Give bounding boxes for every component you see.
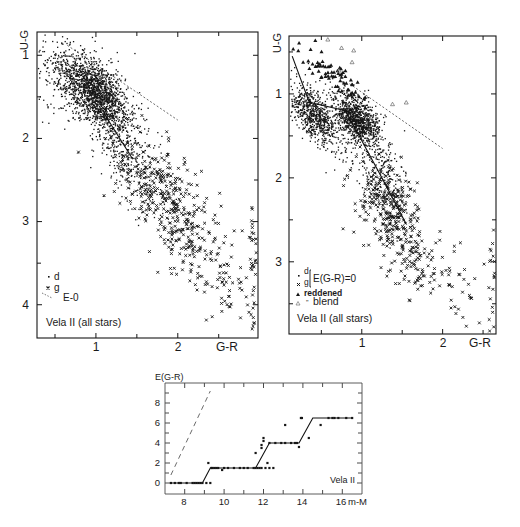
data-point-cross: [214, 214, 217, 217]
data-point-dot: [126, 130, 127, 131]
data-point-dot: [127, 135, 128, 136]
data-point-dot: [92, 77, 93, 78]
data-point-dot: [243, 467, 245, 469]
data-point-dot: [382, 167, 383, 168]
data-point-cross: [354, 202, 357, 205]
data-point-dot: [356, 123, 357, 124]
data-point-dot: [114, 109, 115, 110]
data-point-dot: [101, 86, 102, 87]
data-point-dot: [78, 88, 79, 89]
data-point-dot: [355, 109, 356, 110]
data-point-dot: [135, 158, 136, 159]
data-point-dot: [360, 109, 361, 110]
data-point-dot: [375, 134, 376, 135]
data-point-dot: [47, 60, 48, 61]
data-point-dot: [373, 121, 374, 122]
data-point-dot: [78, 98, 79, 99]
data-point-dot: [306, 100, 307, 101]
data-point-dot: [334, 136, 335, 137]
data-point-cross: [146, 214, 149, 217]
data-point-cross: [254, 242, 257, 245]
data-point-dot: [80, 63, 81, 64]
data-point-dot: [129, 135, 130, 136]
data-point-dot: [102, 119, 103, 120]
data-point-dot: [346, 148, 347, 149]
data-point-cross: [353, 137, 356, 140]
data-point-dot: [353, 109, 354, 110]
data-point-dot: [362, 134, 363, 135]
data-point-dot: [346, 91, 347, 92]
bottom-ytick-8: 8: [155, 397, 160, 408]
data-point-dot: [301, 119, 302, 120]
data-point-filled-triangle: [311, 62, 315, 66]
data-point-dot: [344, 112, 345, 113]
data-point-dot: [344, 105, 345, 106]
data-point-dot: [355, 104, 356, 105]
data-point-dot: [60, 64, 61, 65]
data-point-dot: [117, 118, 118, 119]
data-point-dot: [344, 117, 345, 118]
data-point-dot: [360, 123, 361, 124]
data-point-dot: [375, 130, 376, 131]
data-point-dot: [66, 78, 67, 79]
data-point-dot: [73, 89, 74, 90]
data-point-dot: [407, 186, 408, 187]
data-point-dot: [291, 111, 292, 112]
data-point-dot: [46, 71, 47, 72]
data-point-dot: [342, 113, 343, 114]
data-point-dot: [104, 118, 105, 119]
data-point-dot: [97, 78, 98, 79]
data-point-dot: [330, 131, 331, 132]
data-point-dot: [64, 85, 65, 86]
data-point-dot: [101, 82, 102, 83]
data-point-dot: [369, 122, 370, 123]
data-point-dot: [320, 113, 321, 114]
data-point-dot: [343, 135, 344, 136]
data-point-dot: [318, 139, 319, 140]
data-point-dot: [116, 99, 117, 100]
data-point-dot: [107, 132, 108, 133]
data-point-dot: [342, 93, 343, 94]
data-point-dot: [300, 85, 301, 86]
data-point-dot: [308, 106, 309, 107]
data-point-dot: [114, 113, 115, 114]
data-point-dot: [69, 106, 70, 107]
data-point-dot: [67, 75, 68, 76]
data-point-dot: [115, 95, 116, 96]
data-point-dot: [63, 55, 64, 56]
data-point-cross: [187, 183, 190, 186]
data-point-dot: [290, 79, 291, 80]
data-point-cross: [194, 173, 197, 176]
data-point-dot: [322, 92, 323, 93]
data-point-dot: [306, 114, 307, 115]
data-point-dot: [317, 123, 318, 124]
data-point-dot: [331, 151, 332, 152]
data-point-dot: [215, 467, 217, 469]
data-point-cross: [193, 204, 196, 207]
data-point-dot: [357, 99, 358, 100]
data-point-dot: [362, 187, 363, 188]
data-point-dot: [106, 91, 107, 92]
bottom-x-axis-label: m-M: [348, 496, 367, 507]
data-point-dot: [95, 114, 96, 115]
data-point-cross: [160, 171, 163, 174]
data-point-dot: [75, 71, 76, 72]
data-point-dot: [81, 53, 82, 54]
data-point-dot: [82, 99, 83, 100]
right-legend: d g E(G-R)=0 reddened " blend Vela II (a…: [296, 266, 372, 324]
data-point-dot: [323, 121, 324, 122]
data-point-dot: [332, 110, 333, 111]
data-point-cross: [118, 165, 121, 168]
data-point-dot: [113, 87, 114, 88]
data-point-dot: [85, 69, 86, 70]
data-point-dot: [325, 107, 326, 108]
data-point-dot: [310, 118, 311, 119]
data-point-cross: [391, 235, 394, 238]
data-point-dot: [102, 96, 103, 97]
data-point-dot: [378, 159, 379, 160]
data-point-dot: [381, 137, 382, 138]
data-point-dot: [366, 172, 367, 173]
data-point-dot: [109, 105, 110, 106]
data-point-dot: [302, 109, 303, 110]
data-point-cross: [114, 155, 117, 158]
